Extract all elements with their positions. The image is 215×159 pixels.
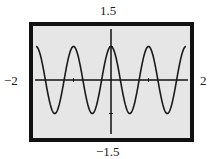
graph-screen <box>0 0 215 159</box>
